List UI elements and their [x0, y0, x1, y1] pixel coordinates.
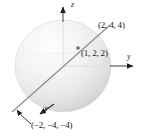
x-axis-label: x — [44, 105, 48, 113]
y-axis-label: y — [127, 53, 131, 61]
point-label-bottom: (−2, −4, −4) — [31, 121, 72, 130]
point-label-top: (2, 4, 4) — [98, 21, 125, 30]
z-axis-label: z — [71, 1, 74, 9]
center-point-marker — [76, 46, 80, 50]
bottom-point-leader — [17, 110, 31, 124]
sphere-diagram-figure: (2, 4, 4) (1, 2, 2) (−2, −4, −4) z y x — [0, 0, 145, 137]
point-label-center: (1, 2, 2) — [81, 49, 108, 58]
